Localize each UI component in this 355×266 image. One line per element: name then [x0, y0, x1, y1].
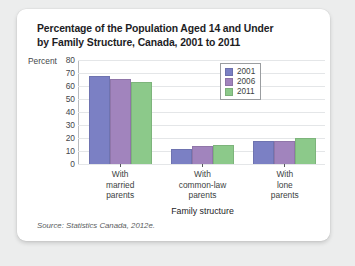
x-axis-title: Family structure: [79, 206, 326, 216]
category-label-line: With: [79, 169, 161, 180]
legend-swatch-2011: [225, 88, 233, 96]
category-label: Withmarriedparents: [79, 169, 161, 201]
axes: 80706050403020100: [78, 61, 325, 165]
category-label-line: common-law: [161, 180, 243, 191]
plot-area: Percent 80706050403020100 Withmarriedpar…: [17, 9, 330, 241]
category-label-line: parents: [161, 190, 243, 201]
category-label: Withloneparents: [244, 169, 326, 201]
source-note: Source: Statistics Canada, 2012e.: [37, 221, 155, 230]
y-tick-label-40: 40: [66, 107, 75, 117]
category-label-line: With: [244, 169, 326, 180]
bar-2001: [171, 149, 192, 164]
legend-item-2001: 2001: [225, 67, 255, 76]
y-tick-label-60: 60: [66, 81, 75, 91]
category-label-line: lone: [244, 180, 326, 191]
bar-2011: [295, 138, 316, 164]
category-label-line: With: [161, 169, 243, 180]
chart-legend: 200120062011: [220, 63, 261, 100]
bar-2011: [131, 82, 152, 164]
category-label: Withcommon-lawparents: [161, 169, 243, 201]
y-tick-label-20: 20: [66, 133, 75, 143]
y-tick-label-70: 70: [66, 68, 75, 78]
bar-group: [79, 61, 161, 164]
y-tick-label-10: 10: [66, 146, 75, 156]
y-axis-title: Percent: [28, 56, 57, 66]
category-label-line: parents: [79, 190, 161, 201]
category-label-line: married: [79, 180, 161, 191]
x-tick-mark: [202, 164, 203, 167]
y-tick-label-80: 80: [66, 55, 75, 65]
legend-item-2006: 2006: [225, 77, 255, 86]
x-tick-mark: [120, 164, 121, 167]
legend-item-2011: 2011: [225, 87, 255, 96]
y-tick-label-0: 0: [70, 159, 75, 169]
legend-label-2006: 2006: [237, 77, 255, 86]
category-label-line: parents: [244, 190, 326, 201]
y-tick-label-50: 50: [66, 94, 75, 104]
y-tick-label-30: 30: [66, 120, 75, 130]
bar-groups: [79, 61, 325, 164]
legend-label-2011: 2011: [237, 87, 255, 96]
x-tick-mark: [284, 164, 285, 167]
bar-2006: [110, 79, 131, 164]
chart-card: Percentage of the Population Aged 14 and…: [17, 9, 330, 241]
legend-swatch-2001: [225, 68, 233, 76]
x-axis-category-labels: WithmarriedparentsWithcommon-lawparentsW…: [79, 169, 326, 201]
legend-label-2001: 2001: [237, 67, 255, 76]
bar-2011: [213, 145, 234, 164]
bar-2006: [274, 141, 295, 164]
bar-2001: [253, 141, 274, 164]
legend-swatch-2006: [225, 78, 233, 86]
bar-2001: [89, 76, 110, 164]
bar-2006: [192, 146, 213, 164]
